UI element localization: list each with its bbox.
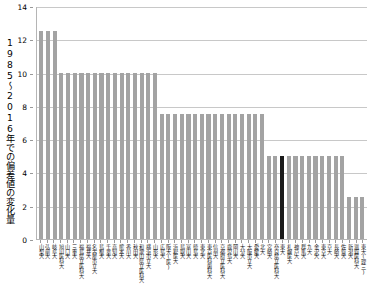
x-label-slot: 富山大	[185, 244, 192, 304]
x-tick-slot	[299, 240, 306, 243]
x-tick-label: 東京医科歯科大	[206, 244, 211, 278]
bar	[260, 114, 264, 239]
x-tick-slot	[205, 240, 212, 243]
x-tick-label: 千葉大	[105, 244, 110, 258]
x-tick-slot	[91, 240, 98, 243]
x-label-slot: 阪大(医)	[165, 244, 172, 304]
x-tick-slot	[165, 240, 172, 243]
x-label-slot: 群馬大	[299, 244, 306, 304]
bar-slot	[259, 7, 266, 239]
bar	[287, 156, 291, 239]
x-tick-mark	[349, 240, 350, 243]
x-tick-mark	[215, 240, 216, 243]
bar-slot	[138, 7, 145, 239]
bar	[300, 156, 304, 239]
x-tick-mark	[134, 240, 135, 243]
x-tick-mark	[356, 240, 357, 243]
x-tick-slot	[50, 240, 57, 243]
bar	[293, 156, 297, 239]
x-tick-label: 宮崎大	[266, 244, 271, 258]
bar	[327, 156, 331, 239]
x-tick-mark	[154, 240, 155, 243]
x-tick-mark	[322, 240, 323, 243]
bar	[213, 114, 217, 239]
x-label-slot: 千葉大	[104, 244, 111, 304]
x-tick-label: 佐賀大	[340, 244, 345, 258]
x-label-slot: 大分大	[239, 244, 246, 304]
x-tick-mark	[342, 240, 343, 243]
bar	[240, 114, 244, 239]
x-tick-mark	[114, 240, 115, 243]
y-tick-label: 12	[17, 36, 27, 45]
x-label-slot: 高知大	[111, 244, 118, 304]
x-label-slot: 和歌山県立医科大	[138, 244, 145, 304]
x-label-slot: 長崎大	[333, 244, 340, 304]
x-tick-slot	[326, 240, 333, 243]
bar-slot	[272, 7, 279, 239]
x-tick-label: 岡山大	[233, 244, 238, 258]
bar	[227, 114, 231, 239]
bar-slot	[132, 7, 139, 239]
x-tick-mark	[181, 240, 182, 243]
x-label-slot: 横浜市立大	[145, 244, 152, 304]
bar-slot	[312, 7, 319, 239]
x-tick-mark	[161, 240, 162, 243]
bar	[200, 114, 204, 239]
x-tick-label: 信州大	[212, 244, 217, 258]
x-tick-label: 鹿児島大	[226, 244, 231, 263]
x-tick-mark	[335, 240, 336, 243]
x-label-slot: 島根大	[97, 244, 104, 304]
bar-slot	[339, 7, 346, 239]
bar-slot	[58, 7, 65, 239]
bar	[354, 197, 358, 239]
x-tick-label: 阪大(医)	[165, 244, 170, 270]
x-tick-slot	[312, 240, 319, 243]
bar-slot	[165, 7, 172, 239]
x-tick-mark	[40, 240, 41, 243]
x-tick-mark	[235, 240, 236, 243]
x-tick-label: 富山大	[185, 244, 190, 258]
bar-slot	[65, 7, 72, 239]
x-tick-label: 九大	[306, 244, 311, 254]
x-tick-slot	[265, 240, 272, 243]
x-tick-label: 京大	[327, 244, 332, 254]
x-tick-mark	[87, 240, 88, 243]
x-tick-slot	[239, 240, 246, 243]
x-tick-mark	[53, 240, 54, 243]
x-tick-mark	[288, 240, 289, 243]
bar	[307, 156, 311, 239]
bar-slot	[145, 7, 152, 239]
x-tick-slot	[77, 240, 84, 243]
x-tick-label: 東大(理三)	[360, 244, 365, 275]
x-label-slot: 弘前大	[44, 244, 51, 304]
bar	[334, 156, 338, 239]
bar-slot	[125, 7, 132, 239]
x-tick-label: 岐阜大	[51, 244, 56, 258]
x-tick-slot	[171, 240, 178, 243]
x-tick-mark	[47, 240, 48, 243]
x-label-slot: 香川大	[124, 244, 131, 304]
y-axis-title: 1985～2016年での偏差値の変化量	[3, 28, 17, 233]
x-tick-label: 京都府立医科大	[219, 244, 224, 278]
x-tick-slot	[138, 240, 145, 243]
y-tick-mark	[30, 7, 33, 8]
x-label-slot: 三重大	[71, 244, 78, 304]
bar	[186, 114, 190, 239]
bar-slot	[319, 7, 326, 239]
x-tick-slot	[145, 240, 152, 243]
x-tick-mark	[315, 240, 316, 243]
bar-slot	[118, 7, 125, 239]
x-tick-mark	[262, 240, 263, 243]
bar	[206, 114, 210, 239]
y-tick-label: 10	[17, 69, 27, 78]
x-tick-label: 熊本大	[118, 244, 123, 258]
y-tick-mark	[30, 140, 33, 141]
y-tick-label: 6	[22, 136, 27, 145]
x-tick-label: 和歌山県立医科大	[138, 244, 143, 282]
x-tick-slot	[37, 240, 44, 243]
x-tick-label: 大阪市立大	[246, 244, 251, 268]
x-tick-slot	[158, 240, 165, 243]
bar-slot	[245, 7, 252, 239]
x-tick-mark	[268, 240, 269, 243]
x-tick-mark	[174, 240, 175, 243]
